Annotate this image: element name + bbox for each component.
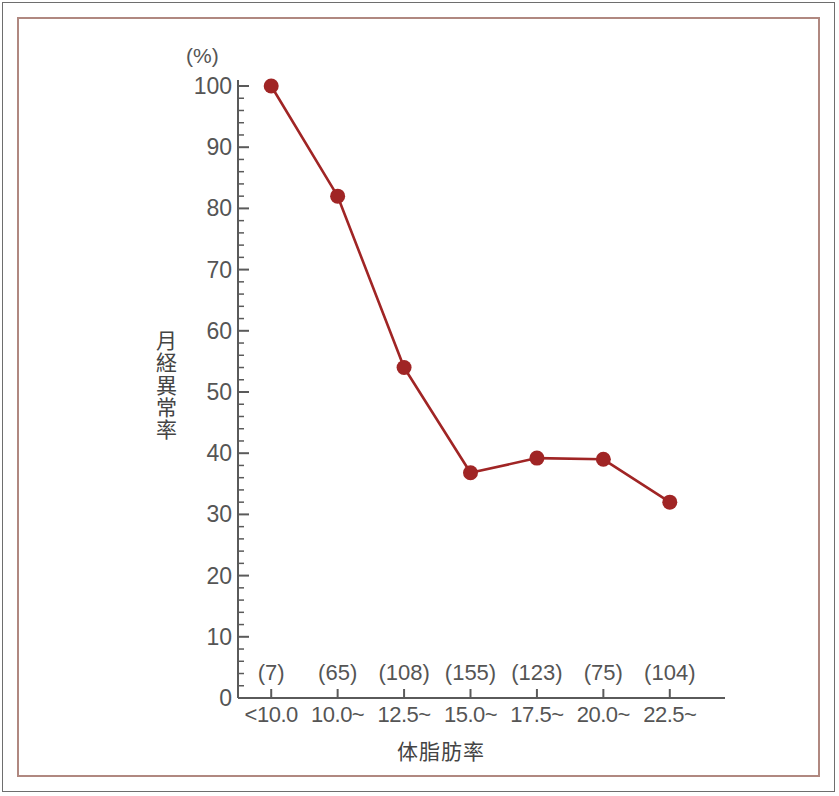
y-axis-ticks <box>238 86 249 698</box>
sample-size-label: (75) <box>584 660 623 686</box>
sample-size-label: (7) <box>258 660 285 686</box>
x-axis-tick-label: 15.0~ <box>444 702 497 728</box>
axis-lines <box>238 80 725 698</box>
x-axis-title-text: 体脂肪率 <box>397 735 485 765</box>
sample-size-label: (155) <box>445 660 496 686</box>
data-point-marker <box>264 79 279 94</box>
sample-size-label: (104) <box>644 660 695 686</box>
data-point-marker <box>330 189 345 204</box>
x-axis-tick-label: 20.0~ <box>577 702 630 728</box>
x-axis-tick-label: 22.5~ <box>643 702 696 728</box>
x-axis-tick-label: 12.5~ <box>377 702 430 728</box>
x-axis-tick-label: 10.0~ <box>311 702 364 728</box>
sample-size-label: (108) <box>378 660 429 686</box>
data-point-marker <box>397 360 412 375</box>
sample-size-labels: (7)(65)(108)(155)(123)(75)(104) <box>0 660 839 690</box>
series-markers <box>264 79 678 510</box>
data-point-marker <box>463 465 478 480</box>
data-point-marker <box>529 451 544 466</box>
x-axis-tick-label: <10.0 <box>245 702 298 728</box>
data-point-marker <box>662 495 677 510</box>
data-point-marker <box>596 452 611 467</box>
sample-size-label: (65) <box>318 660 357 686</box>
sample-size-label: (123) <box>511 660 562 686</box>
x-axis-tick-label: 17.5~ <box>510 702 563 728</box>
chart-page: (%) 月経異常率 0102030405060708090100 (7)(65)… <box>0 0 839 796</box>
line-chart: (%) 月経異常率 0102030405060708090100 (7)(65)… <box>0 0 839 796</box>
x-axis-tick-labels: <10.010.0~12.5~15.0~17.5~20.0~22.5~ <box>0 702 839 734</box>
x-axis-ticks <box>271 689 670 698</box>
x-axis-title: 体脂肪率 <box>0 735 839 765</box>
series-line <box>271 86 670 502</box>
